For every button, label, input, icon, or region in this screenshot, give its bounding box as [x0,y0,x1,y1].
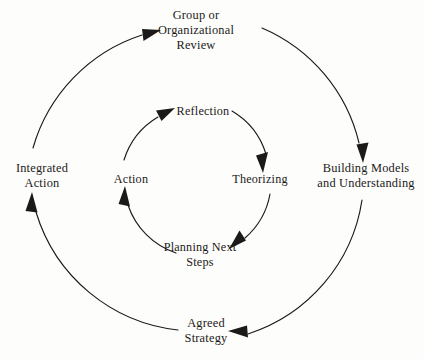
cycle-diagram: Group or Organizational Review Building … [0,0,424,359]
arrowhead-into-reflection [156,108,175,121]
inner-stage-label-action: Action [114,172,148,187]
outer-stage-label-group-or-organizational-review: Group or Organizational Review [158,8,234,53]
arrowhead-into-integrated-action [26,192,38,213]
inner-arc-action-to-reflection [124,108,175,160]
outer-arc-strategy-to-integrated [26,192,179,330]
arrowhead-into-building-models [357,143,369,164]
inner-stage-label-reflection: Reflection [177,104,230,119]
outer-stage-label-integrated-action: Integrated Action [16,161,68,191]
arrowhead-into-action [119,186,131,207]
inner-arc-reflection-to-theorizing [232,111,268,173]
inner-stage-label-theorizing: Theorizing [232,172,287,187]
outer-stage-label-building-models-and-understanding: Building Models and Understanding [317,161,414,191]
inner-stage-label-planning-next-steps: Planning Next Steps [164,240,237,270]
arrowhead-into-agreed-strategy [228,326,248,338]
outer-arc-building-to-strategy [228,200,362,338]
outer-stage-label-agreed-strategy: Agreed Strategy [185,316,228,346]
outer-arc-review-to-building [262,28,369,163]
arrowhead-into-theorizing [256,152,268,173]
